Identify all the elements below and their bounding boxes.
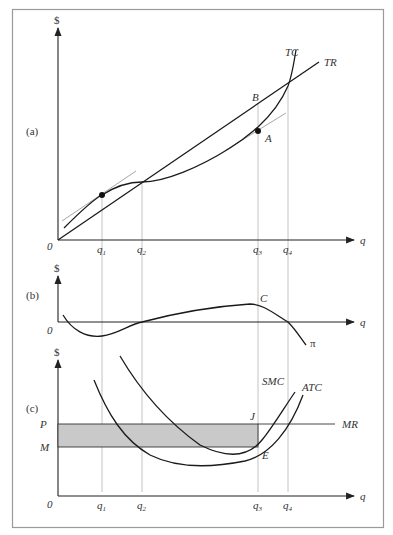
x-axis-label-c: q [360, 490, 366, 502]
y-axis-label-b: $ [54, 262, 60, 274]
profit-label: π [310, 337, 316, 349]
smc-label: SMC [262, 375, 285, 387]
tangent-point-q1 [99, 192, 105, 198]
x-ticks-a: q1 q2 q3 q4 [97, 243, 293, 257]
panel-c: $ q 0 (c) P M MR SMC ATC J E q1 q2 q3 q4 [26, 346, 366, 513]
origin-label-b: 0 [47, 324, 53, 336]
panel-label-c: (c) [26, 402, 39, 415]
point-c-label: C [260, 292, 268, 304]
origin-label-c: 0 [47, 498, 53, 510]
tick-q3-a: q3 [253, 243, 263, 257]
panel-label-b: (b) [26, 289, 39, 302]
point-e-label: E [261, 449, 269, 461]
tick-q4-c: q4 [283, 499, 293, 513]
y-tick-p: P [39, 418, 47, 430]
tick-q2-c: q2 [137, 499, 147, 513]
atc-curve [94, 380, 303, 466]
panel-a: $ q 0 (a) TC TR B A q1 q2 q3 q4 [26, 14, 366, 257]
tick-q2-a: q2 [137, 243, 147, 257]
tick-q1-c: q1 [97, 499, 106, 513]
y-axis-label-a: $ [54, 14, 60, 26]
atc-label: ATC [301, 381, 322, 393]
point-a [255, 128, 261, 134]
panel-b: $ q 0 (b) C π [26, 262, 366, 349]
x-axis-label-b: q [360, 316, 366, 328]
economics-diagram: $ q 0 (a) TC TR B A q1 q2 q3 q4 $ q 0 (b… [0, 0, 393, 535]
tick-q4-a: q4 [283, 243, 293, 257]
profit-rectangle [58, 424, 258, 447]
figure-frame [13, 10, 384, 528]
point-a-label: A [264, 132, 272, 144]
y-axis-label-c: $ [54, 346, 60, 358]
x-ticks-c: q1 q2 q3 q4 [97, 499, 293, 513]
profit-curve [63, 304, 306, 345]
tc-curve [64, 50, 296, 228]
tick-q1-a: q1 [97, 243, 106, 257]
origin-label-a: 0 [47, 240, 53, 252]
tick-q3-c: q3 [253, 499, 263, 513]
tr-curve [58, 62, 319, 240]
point-b-label: B [252, 91, 259, 103]
mr-label: MR [341, 418, 358, 430]
panel-label-a: (a) [26, 125, 39, 138]
x-axis-label-a: q [360, 234, 366, 246]
y-tick-m: M [39, 441, 50, 453]
tc-label: TC [285, 46, 299, 58]
point-j-label: J [250, 410, 256, 422]
tr-label: TR [324, 56, 337, 68]
